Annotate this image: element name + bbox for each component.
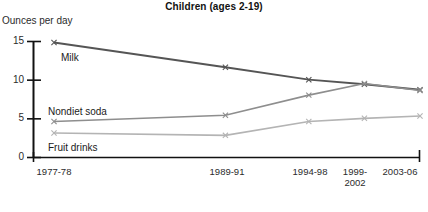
y-tick-label-10: 10 <box>0 74 24 85</box>
y-tick-label-5: 5 <box>0 112 24 123</box>
y-tick-label-15: 15 <box>0 35 24 46</box>
series-label-milk: Milk <box>61 52 79 63</box>
series-line-nondiet-soda <box>54 84 420 122</box>
x-tick-label-1: 1989-91 <box>187 166 267 177</box>
chart-series-group <box>51 40 422 138</box>
series-label-nondiet-soda: Nondiet soda <box>48 106 107 117</box>
x-tick-label-4: 2003-06 <box>360 166 428 177</box>
chart-container: Children (ages 2-19) Ounces per day 0510… <box>0 0 428 212</box>
x-tick-label-0: 1977-78 <box>14 166 94 177</box>
series-label-fruit-drinks: Fruit drinks <box>48 142 97 153</box>
y-tick-label-0: 0 <box>0 151 24 162</box>
x-tick-label-3-line2: 2002 <box>315 177 395 188</box>
